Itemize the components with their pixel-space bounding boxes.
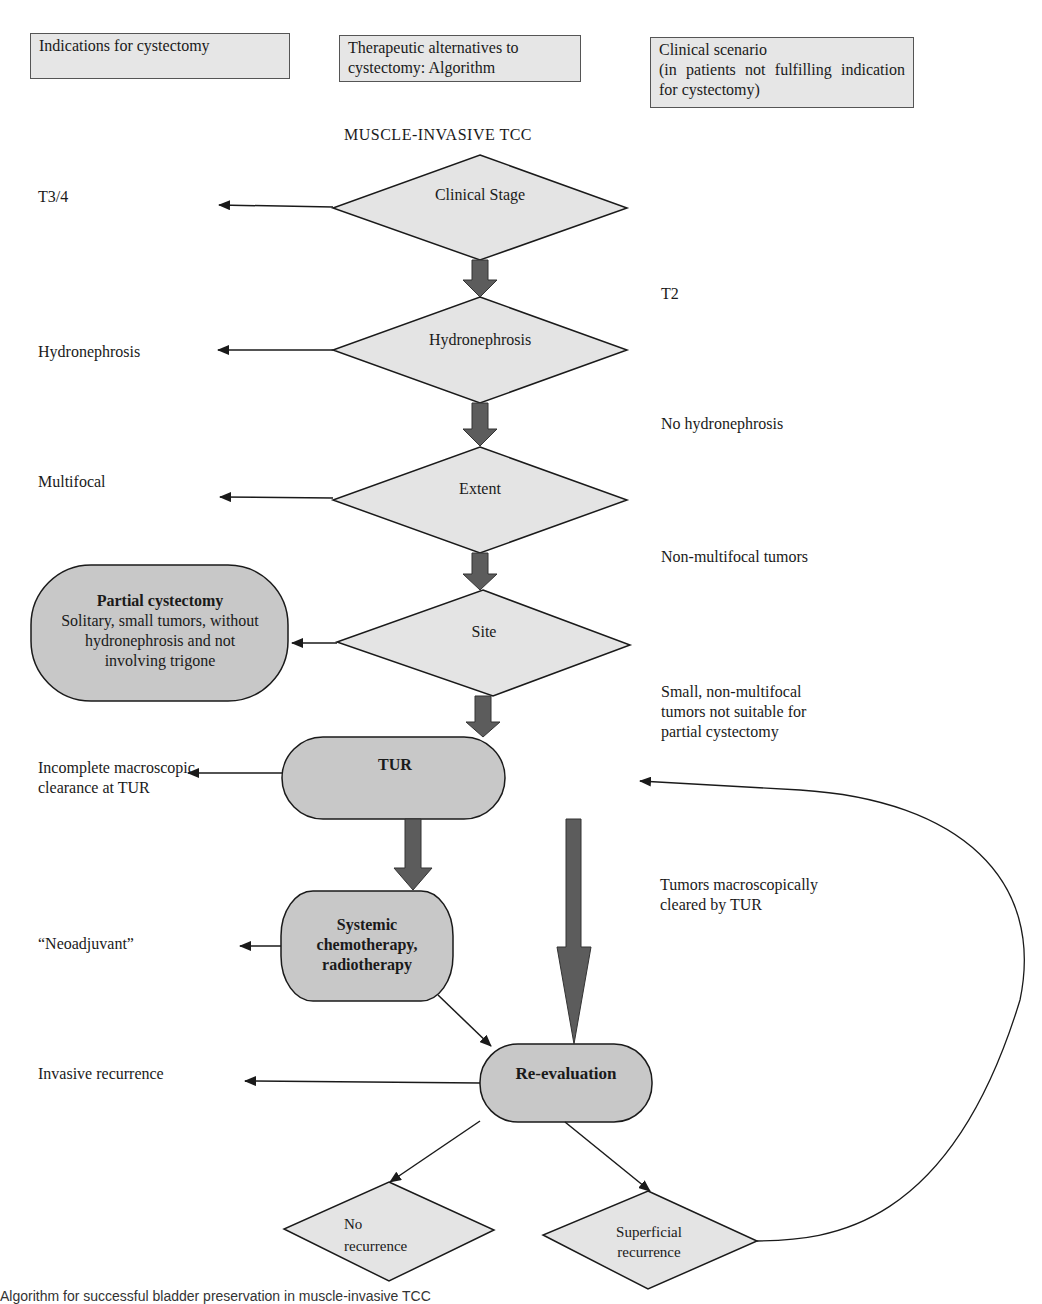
diamond-extent: [333, 447, 627, 553]
header-indications: Indications for cystectomy: [30, 33, 290, 79]
feedback-loop-arrow: [640, 781, 1024, 1241]
indication-incomplete-line1: Incomplete macroscopic: [38, 758, 195, 778]
diamond-hydronephrosis: [333, 297, 627, 403]
node-extent: Extent: [400, 479, 560, 499]
figure-caption: Algorithm for successful bladder preserv…: [0, 1288, 431, 1304]
node-re-evaluation: Re-evaluation: [485, 1064, 647, 1084]
node-clinical-stage: Clinical Stage: [400, 185, 560, 205]
indication-hydronephrosis: Hydronephrosis: [38, 342, 140, 362]
scenario-small-line3: partial cystectomy: [661, 722, 806, 742]
indication-t34: T3/4: [38, 187, 68, 207]
node-tur-shape: [282, 737, 505, 819]
scenario-cleared-by-tur: Tumors macroscopically cleared by TUR: [660, 875, 818, 915]
partial-cystectomy-desc: Solitary, small tumors, without hydronep…: [40, 611, 280, 671]
indication-incomplete-line2: clearance at TUR: [38, 778, 195, 798]
scenario-small-line2: tumors not suitable for: [661, 702, 806, 722]
node-site: Site: [404, 622, 564, 642]
scenario-cleared-line1: Tumors macroscopically: [660, 875, 818, 895]
diagram-title: MUSCLE-INVASIVE TCC: [344, 125, 532, 145]
scenario-t2: T2: [661, 284, 679, 304]
node-no-recurrence: No recurrence: [344, 1213, 414, 1257]
diamond-site: [337, 590, 630, 696]
indication-multifocal: Multifocal: [38, 472, 106, 492]
scenario-no-hydronephrosis: No hydronephrosis: [661, 414, 783, 434]
node-tur: TUR: [330, 755, 460, 775]
node-hydronephrosis: Hydronephrosis: [400, 330, 560, 350]
scenario-small-tumors: Small, non-multifocal tumors not suitabl…: [661, 682, 806, 742]
header-scenario-title: Clinical scenario: [659, 40, 905, 60]
scenario-cleared-line2: cleared by TUR: [660, 895, 818, 915]
partial-cystectomy-title: Partial cystectomy: [40, 591, 280, 611]
node-partial-cystectomy: Partial cystectomy Solitary, small tumor…: [40, 591, 280, 671]
node-systemic-therapy: Systemic chemotherapy, radiotherapy: [296, 915, 438, 975]
scenario-small-line1: Small, non-multifocal: [661, 682, 806, 702]
header-clinical-scenario: Clinical scenario (in patients not fulfi…: [650, 37, 914, 108]
header-alternatives: Therapeutic alternatives to cystectomy: …: [339, 35, 581, 82]
header-alternatives-label: Therapeutic alternatives to cystectomy: …: [348, 39, 519, 76]
indication-neoadjuvant: “Neoadjuvant”: [38, 934, 134, 954]
scenario-non-multifocal: Non-multifocal tumors: [661, 547, 808, 567]
header-indications-label: Indications for cystectomy: [39, 37, 210, 54]
indication-invasive-recurrence: Invasive recurrence: [38, 1064, 164, 1084]
diamond-clinical-stage: [333, 155, 627, 260]
indication-incomplete-clearance: Incomplete macroscopic clearance at TUR: [38, 758, 195, 798]
node-superficial-recurrence: Superficial recurrence: [604, 1222, 694, 1262]
header-scenario-subtitle: (in patients not fulfilling indication f…: [659, 61, 905, 98]
